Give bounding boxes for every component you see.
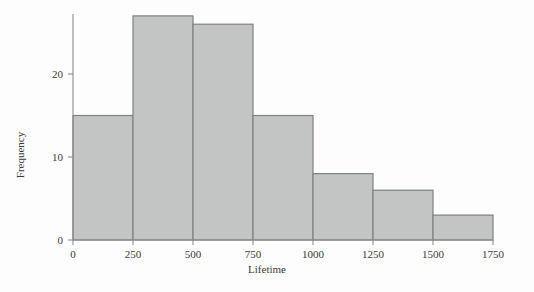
x-tick-label: 1500 — [422, 248, 445, 260]
x-tick-label: 500 — [185, 248, 202, 260]
histogram-bar — [433, 215, 493, 240]
chart-canvas: 02505007501000125015001750 01020 Lifetim… — [0, 0, 534, 292]
x-tick-label: 1000 — [302, 248, 325, 260]
x-tick-label: 1250 — [362, 248, 385, 260]
histogram-chart: 02505007501000125015001750 01020 Lifetim… — [0, 0, 534, 292]
x-tick-label: 1750 — [482, 248, 505, 260]
x-tick-label: 250 — [125, 248, 142, 260]
histogram-bar — [373, 190, 433, 240]
y-tick-label: 10 — [52, 151, 64, 163]
x-tick-label: 750 — [245, 248, 262, 260]
y-axis-label: Frequency — [14, 131, 26, 178]
histogram-bar — [253, 116, 313, 241]
x-axis-label: Lifetime — [248, 263, 286, 275]
x-tick-label: 0 — [70, 248, 76, 260]
histogram-bar — [313, 174, 373, 240]
histogram-bar — [133, 16, 193, 240]
histogram-bar — [73, 116, 133, 241]
histogram-bar — [193, 24, 253, 240]
y-tick-label: 0 — [58, 234, 64, 246]
y-tick-label: 20 — [52, 68, 64, 80]
